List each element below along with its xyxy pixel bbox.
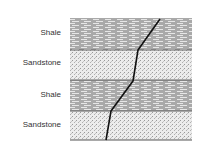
- layer-label-sandstone-2: Sandstone: [23, 120, 61, 130]
- layer-sandstone-2: [70, 50, 192, 80]
- layer-label-sandstone-1: Sandstone: [23, 58, 61, 68]
- layer-label-shale-2: Shale: [41, 90, 61, 100]
- layer-sandstone-4: [70, 111, 192, 140]
- rock-layers: [70, 18, 192, 140]
- layer-label-shale-1: Shale: [41, 28, 61, 38]
- layer-shale-1: [70, 18, 192, 50]
